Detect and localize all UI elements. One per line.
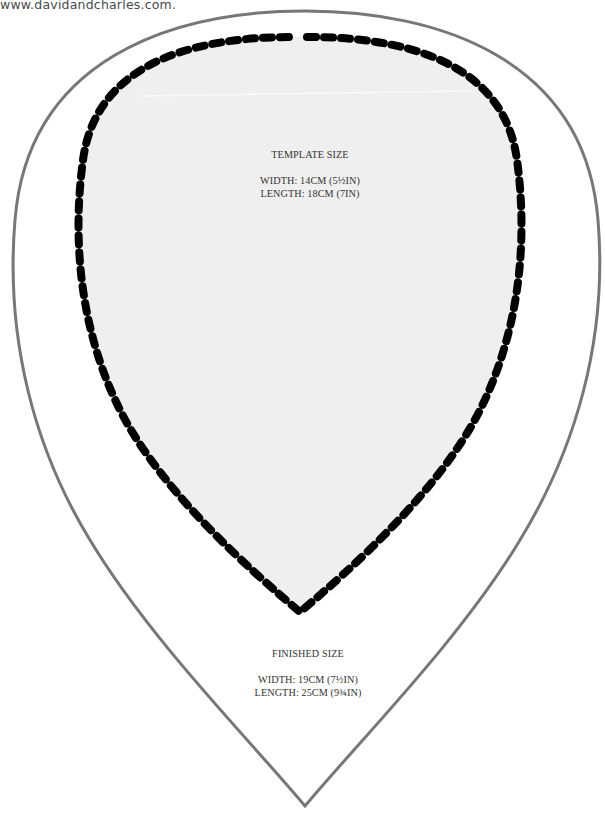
template-size-label: TEMPLATE SIZE WIDTH: 14CM (5½IN) LENGTH:… xyxy=(210,148,410,200)
template-size-title: TEMPLATE SIZE xyxy=(210,148,410,161)
finished-width: WIDTH: 19CM (7½IN) xyxy=(208,673,408,686)
finished-size-title: FINISHED SIZE xyxy=(208,647,408,660)
finished-length: LENGTH: 25CM (9¾IN) xyxy=(208,686,408,699)
template-length: LENGTH: 18CM (7IN) xyxy=(210,187,410,200)
template-width: WIDTH: 14CM (5½IN) xyxy=(210,174,410,187)
finished-size-label: FINISHED SIZE WIDTH: 19CM (7½IN) LENGTH:… xyxy=(208,647,408,699)
